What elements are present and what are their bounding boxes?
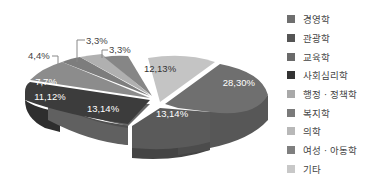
- label-gwangwang: 13,14%: [156, 108, 189, 119]
- legend-label: 교육학: [303, 50, 330, 64]
- label-sahoe: 11,12%: [34, 91, 66, 102]
- pie-chart: 28,30% 13,14% 13,14% 11,12% 7,7% 4,4% 3,…: [0, 0, 280, 183]
- label-gita: 12,13%: [144, 63, 177, 74]
- label-uihak: 3,3%: [86, 35, 108, 46]
- legend-item: 교육학: [287, 47, 357, 66]
- label-bokji: 4,4%: [28, 50, 50, 61]
- legend-label: 경영학: [303, 12, 330, 26]
- legend-label: 사회심리학: [303, 68, 348, 82]
- legend-label: 복지학: [303, 106, 330, 120]
- label-gyeongyeong: 28,30%: [223, 77, 256, 88]
- legend-swatch: [287, 90, 295, 98]
- legend-item: 의학: [287, 122, 357, 141]
- legend-label: 여성 · 아동학: [303, 143, 357, 157]
- legend-item: 경영학: [287, 10, 357, 29]
- legend-swatch: [287, 71, 295, 79]
- legend-item: 기타: [287, 160, 357, 179]
- legend-item: 관광학: [287, 29, 357, 48]
- legend-label: 행정 · 정책학: [303, 87, 357, 101]
- label-gyoyuk: 13,14%: [87, 103, 120, 114]
- legend-swatch: [287, 109, 295, 117]
- legend-label: 관광학: [303, 31, 330, 45]
- chart-legend: 경영학 관광학 교육학 사회심리학 행정 · 정책학 복지학 의학 여성 · 아…: [287, 10, 357, 178]
- legend-label: 의학: [303, 124, 321, 138]
- legend-item: 복지학: [287, 103, 357, 122]
- legend-item: 행정 · 정책학: [287, 85, 357, 104]
- legend-swatch: [287, 34, 295, 42]
- legend-swatch: [287, 15, 295, 23]
- legend-label: 기타: [303, 162, 321, 176]
- legend-item: 여성 · 아동학: [287, 141, 357, 160]
- label-yeoseong: 3,3%: [109, 44, 131, 55]
- legend-swatch: [287, 146, 295, 154]
- legend-swatch: [287, 165, 295, 173]
- legend-swatch: [287, 127, 295, 135]
- legend-swatch: [287, 53, 295, 61]
- label-haengjeong: 7,7%: [35, 76, 57, 87]
- legend-item: 사회심리학: [287, 66, 357, 85]
